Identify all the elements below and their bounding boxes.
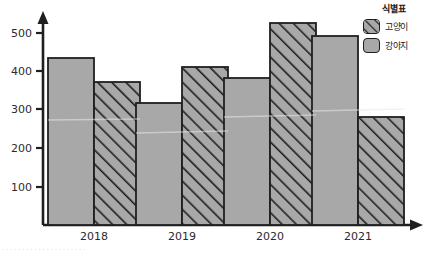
- y-tick-label: 100: [11, 181, 32, 194]
- bar-group-2018: [48, 58, 140, 225]
- bar-dog-2018: [48, 58, 94, 225]
- bar-group-2020: [224, 23, 316, 225]
- bar-cat-2021: [358, 117, 404, 225]
- legend-label-cat: 고양이: [385, 20, 408, 33]
- y-tick-label: 300: [11, 103, 32, 116]
- bar-chart: 500 400 300 200 100: [0, 0, 434, 254]
- x-axis-tick-labels: 2018 2019 2020 2021: [80, 230, 372, 243]
- y-axis: [38, 11, 49, 225]
- legend-title: 식별표: [359, 2, 429, 15]
- bar-cat-2020: [270, 23, 316, 225]
- legend-swatch-solid: [363, 38, 380, 53]
- bar-dog-2020: [224, 78, 270, 225]
- x-tick-label: 2021: [344, 230, 372, 243]
- legend-item-dog: 강아지: [363, 38, 433, 53]
- bar-group-2019: [136, 67, 228, 225]
- bar-cat-2018: [94, 82, 140, 225]
- page-caption: · · · · · · · · · · · · · · · · · · · · …: [2, 246, 85, 254]
- legend-swatch-hatched: [363, 19, 380, 34]
- y-tick-label: 400: [11, 65, 32, 78]
- bar-cat-2019: [182, 67, 228, 225]
- x-tick-label: 2020: [256, 230, 284, 243]
- legend-item-cat: 고양이: [363, 19, 433, 34]
- x-tick-label: 2018: [80, 230, 108, 243]
- legend-label-dog: 강아지: [385, 39, 408, 52]
- y-tick-label: 500: [11, 27, 32, 40]
- y-axis-tick-labels: 500 400 300 200 100: [11, 27, 32, 194]
- y-tick-label: 200: [11, 142, 32, 155]
- chart-legend: 식별표 고양이 강아지: [355, 2, 433, 64]
- x-tick-label: 2019: [168, 230, 196, 243]
- bar-dog-2021: [312, 36, 358, 225]
- bar-group-2021: [312, 36, 404, 225]
- bar-dog-2019: [136, 103, 182, 225]
